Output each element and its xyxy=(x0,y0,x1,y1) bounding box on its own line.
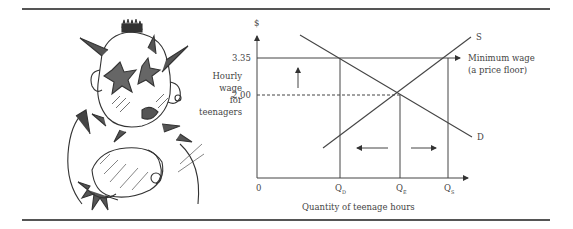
supply-curve-label: S xyxy=(476,32,482,42)
min-wage-line2: (a price floor) xyxy=(468,65,535,75)
y-axis-label: Hourly wage for teenagers xyxy=(186,70,242,118)
minimum-wage-label: Minimum wage (a price floor) xyxy=(468,53,535,75)
y-unit-label: $ xyxy=(254,18,259,28)
tick-label-335: 3.35 xyxy=(232,53,251,63)
ylabel-line: teenagers xyxy=(186,106,242,118)
supply-curve xyxy=(323,37,471,148)
qs-tick-label: QS xyxy=(444,183,454,197)
demand-curve xyxy=(300,35,472,137)
qe-tick-label: QE xyxy=(396,183,407,197)
demand-curve-label: D xyxy=(477,132,484,142)
x-axis-label: Quantity of teenage hours xyxy=(302,202,415,212)
qd-tick-label: QD xyxy=(335,183,346,197)
ylabel-line: wage xyxy=(186,82,242,94)
min-wage-line1: Minimum wage xyxy=(468,53,535,63)
ylabel-line: for xyxy=(186,94,242,106)
minimum-wage-chart xyxy=(0,0,573,229)
ylabel-line: Hourly xyxy=(186,70,242,82)
origin-label: 0 xyxy=(256,183,261,193)
